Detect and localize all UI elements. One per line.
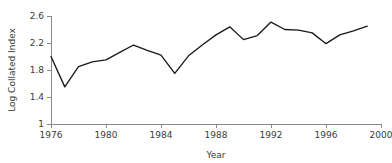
x-tick-label: 1988 — [205, 130, 228, 140]
axes-group — [51, 16, 381, 124]
x-tick-label: 2000 — [370, 130, 392, 140]
y-axis-ticks: 11.41.82.22.6 — [30, 11, 51, 129]
y-tick-label: 1 — [38, 119, 44, 129]
x-tick-label: 1992 — [260, 130, 283, 140]
y-tick-label: 1.8 — [30, 65, 45, 75]
x-tick-label: 1976 — [40, 130, 63, 140]
x-tick-label: 1980 — [95, 130, 118, 140]
chart-figure: 11.41.82.22.6 19761980198419881992199620… — [0, 0, 392, 163]
y-axis-title: Log Collated Index — [7, 28, 17, 112]
y-tick-label: 1.4 — [30, 92, 45, 102]
x-axis-title: Year — [205, 150, 225, 160]
line-chart: 11.41.82.22.6 19761980198419881992199620… — [0, 0, 392, 163]
data-series-line — [51, 22, 367, 87]
y-tick-label: 2.2 — [30, 38, 44, 48]
y-tick-label: 2.6 — [30, 11, 45, 21]
x-axis-ticks: 1976198019841988199219962000 — [40, 124, 392, 140]
x-tick-label: 1984 — [150, 130, 173, 140]
x-tick-label: 1996 — [315, 130, 338, 140]
